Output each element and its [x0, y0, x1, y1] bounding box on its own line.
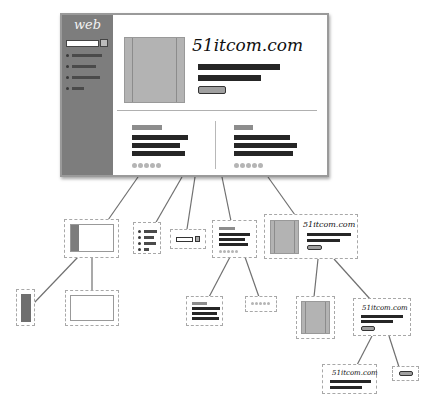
logo-text: web	[62, 17, 113, 32]
node-layout	[64, 219, 119, 258]
card-text-line	[234, 151, 293, 156]
card-dots	[251, 302, 270, 305]
hero-image	[301, 301, 330, 334]
content-block	[70, 295, 114, 321]
content-divider	[117, 110, 317, 111]
hero-text-line	[307, 233, 351, 236]
node-card-dots	[245, 296, 277, 312]
card-dots	[234, 163, 263, 168]
webpage-mockup: web 51itcom.com	[60, 13, 329, 177]
sidebar-search-input	[66, 40, 99, 47]
hero-image	[124, 37, 185, 103]
card-text-line	[192, 317, 219, 320]
search-input-mini	[176, 237, 193, 242]
nav-list-item	[138, 229, 157, 233]
node-hero-image	[296, 296, 335, 339]
card-text-line	[192, 307, 220, 310]
node-sidebar-block	[16, 289, 35, 326]
nav-list-item	[138, 247, 149, 251]
hero-text-line	[198, 75, 261, 81]
card-text-line	[219, 243, 248, 246]
search-button-mini	[195, 236, 200, 242]
hero-button	[198, 86, 226, 94]
card-heading	[192, 302, 207, 305]
hero-text-line	[198, 64, 280, 70]
hero-button	[399, 371, 413, 376]
card-heading	[219, 227, 235, 230]
card-text-line	[132, 143, 180, 148]
card-dots	[219, 250, 238, 253]
card-text-line	[132, 151, 185, 156]
card-text-line	[219, 238, 245, 241]
hero-button	[307, 245, 322, 250]
hero-title: 51itcom.com	[192, 35, 303, 55]
nav-list-item	[138, 235, 154, 239]
hero-text-line	[307, 239, 340, 242]
hero-text-line	[330, 386, 362, 389]
node-card-text	[186, 296, 223, 326]
hero-title: 51itcom.com	[362, 304, 408, 312]
node-search-bar	[170, 229, 206, 249]
card-text-line	[234, 143, 297, 148]
sidebar-block	[21, 294, 31, 322]
node-hero: 51itcom.com	[264, 214, 358, 259]
node-hero-button	[392, 366, 419, 381]
nav-list-item	[138, 241, 156, 245]
sidebar-nav-item	[66, 64, 96, 68]
hero-text-line	[361, 315, 403, 318]
layout-frame	[70, 224, 114, 252]
card-text-line	[219, 233, 250, 236]
card-dots	[132, 163, 161, 168]
card-text-line	[132, 135, 188, 140]
node-nav-list	[133, 222, 161, 254]
hero-button	[361, 326, 375, 331]
layout-sidebar	[71, 225, 79, 251]
card-text-line	[234, 135, 290, 140]
node-card	[212, 220, 257, 258]
node-hero-text: 51itcom.com	[322, 364, 377, 394]
hero-image	[270, 220, 299, 254]
sidebar-nav-item	[66, 75, 100, 79]
hero-title: 51itcom.com	[332, 369, 378, 377]
node-content-block	[65, 290, 119, 326]
sidebar-search-button	[100, 39, 108, 47]
node-hero-content: 51itcom.com	[353, 298, 411, 336]
hero-text-line	[361, 320, 393, 323]
card-heading	[132, 125, 162, 130]
card-heading	[234, 125, 253, 130]
hero-text-line	[330, 380, 371, 383]
mockup-sidebar: web	[62, 15, 113, 175]
card-divider	[215, 121, 216, 169]
hero-title: 51itcom.com	[303, 220, 355, 229]
sidebar-nav-item	[66, 53, 102, 57]
sidebar-nav-item	[66, 86, 84, 90]
card-text-line	[192, 312, 217, 315]
